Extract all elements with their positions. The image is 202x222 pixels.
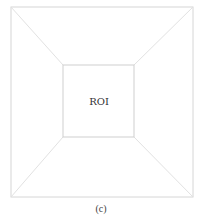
roi-label: ROI <box>89 96 109 107</box>
connector-top-left <box>11 7 63 65</box>
roi-diagram: ROI <box>0 0 202 222</box>
figure-caption: (c) <box>0 203 202 214</box>
connector-bottom-right <box>134 137 193 197</box>
connector-top-right <box>134 7 193 65</box>
connector-bottom-left <box>11 137 63 197</box>
